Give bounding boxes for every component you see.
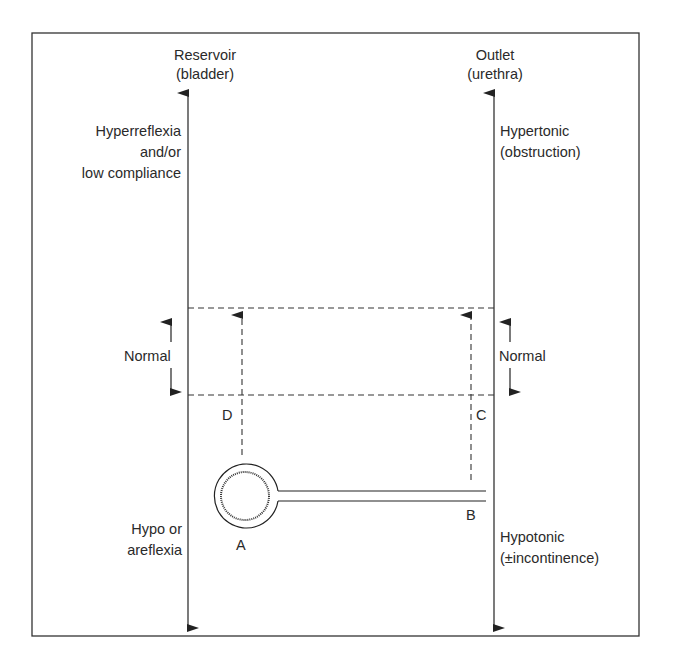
reservoir-normal-label: Normal [124, 347, 171, 366]
reservoir-subtitle-text: (bladder) [150, 65, 260, 84]
reservoir-lower-label: Hypo or areflexia [90, 519, 182, 561]
label-line: Hypo or [90, 519, 182, 540]
outlet-upper-label: Hypertonic (obstruction) [500, 121, 581, 163]
reservoir-upper-label: Hyperreflexia and/or low compliance [40, 121, 181, 184]
point-c-label: C [476, 406, 486, 425]
outlet-normal-label: Normal [499, 347, 546, 366]
label-line: low compliance [40, 163, 181, 184]
label-line: Hypotonic [500, 527, 599, 548]
label-line: (obstruction) [500, 142, 581, 163]
label-line: (±incontinence) [500, 548, 599, 569]
bladder-urethra-icon [214, 464, 486, 528]
point-d-label: D [222, 406, 232, 425]
outlet-title-text: Outlet [440, 46, 550, 65]
label-line: and/or [40, 142, 181, 163]
reservoir-title: Reservoir (bladder) [150, 46, 260, 84]
label-line: areflexia [90, 540, 182, 561]
outlet-lower-label: Hypotonic (±incontinence) [500, 527, 599, 569]
point-a-label: A [236, 536, 246, 555]
outlet-title: Outlet (urethra) [440, 46, 550, 84]
label-line: Hypertonic [500, 121, 581, 142]
label-line: Hyperreflexia [40, 121, 181, 142]
outlet-subtitle-text: (urethra) [440, 65, 550, 84]
reservoir-title-text: Reservoir [150, 46, 260, 65]
point-b-label: B [466, 506, 476, 525]
